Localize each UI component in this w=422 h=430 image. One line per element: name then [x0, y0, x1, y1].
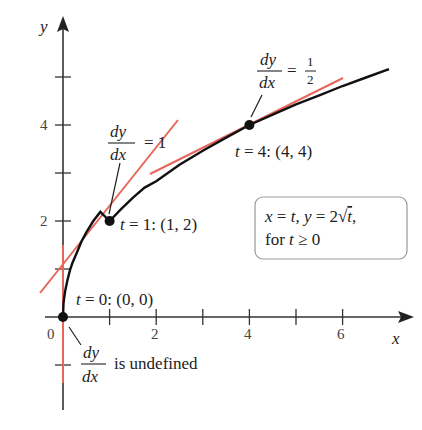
point-t1 — [105, 216, 115, 226]
label-t0: t = 0: (0, 0) — [76, 290, 153, 309]
slope2-equals: = — [287, 61, 297, 80]
equation-line-1: x = t, y = 2√t, — [264, 207, 356, 226]
x-tick-label-2: 2 — [151, 326, 159, 342]
label-t1: t = 1: (1, 2) — [120, 215, 197, 234]
point-t0 — [58, 312, 68, 322]
y-axis-label: y — [38, 17, 48, 36]
x-tick-label-6: 6 — [337, 326, 345, 342]
slope2-rhs-num: 1 — [307, 54, 314, 69]
equation-box: x = t, y = 2√t, for t ≥ 0 — [255, 197, 407, 259]
slope1-denominator: dx — [110, 145, 127, 164]
slope3-numerator: dy — [83, 343, 100, 362]
slope3-text: is undefined — [114, 354, 198, 373]
slope1-numerator: dy — [110, 122, 127, 141]
equation-line-2: for t ≥ 0 — [265, 230, 320, 249]
point-t4 — [244, 120, 254, 130]
label-t4: t = 4: (4, 4) — [235, 142, 312, 161]
parametric-curve-diagram: y x 0 2 4 6 2 4 t = 0: (0, 0) t = 1: (1,… — [0, 0, 422, 430]
slope2-rhs-den: 2 — [307, 72, 314, 87]
slope-annotation-half: dy dx = 1 2 — [257, 50, 316, 92]
slope-annotation-1: dy dx = 1 — [108, 122, 166, 164]
x-tick-label-4: 4 — [244, 326, 252, 342]
slope3-denominator: dx — [82, 367, 99, 386]
y-tick-label-4: 4 — [40, 117, 48, 133]
slope-annotation-undefined: dy dx is undefined — [81, 343, 198, 386]
x-axis-label: x — [391, 329, 400, 348]
y-tick-label-2: 2 — [40, 213, 48, 229]
origin-label: 0 — [47, 326, 55, 342]
slope2-denominator: dx — [259, 73, 276, 92]
slope1-value: = 1 — [144, 133, 166, 152]
parametric-curve — [63, 69, 389, 317]
slope2-numerator: dy — [260, 50, 277, 69]
